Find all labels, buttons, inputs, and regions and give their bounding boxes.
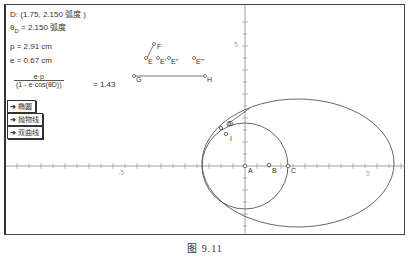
ellipse-button-label: 椭圆: [18, 103, 32, 110]
point-a[interactable]: [243, 164, 247, 168]
label-e2: E": [171, 58, 179, 65]
label-d: D: [228, 120, 233, 127]
label-h: H: [207, 76, 212, 83]
ellipse-curve[interactable]: [202, 99, 394, 227]
label-c: C: [291, 167, 296, 174]
arrow-right-icon: ➔: [10, 103, 16, 110]
label-e3: E'": [196, 58, 205, 65]
parabola-button[interactable]: ➔抛物线: [7, 113, 43, 126]
x-tick-label-pos: 5: [366, 170, 370, 177]
geometry-canvas[interactable]: -5 5 5 A B C D I F E E' E" E'" G H: [0, 0, 410, 257]
measure-e: e = 0.67 cm: [10, 56, 52, 65]
label-e1: E': [160, 58, 166, 65]
measure-p: p = 2.91 cm: [10, 42, 52, 51]
point-f[interactable]: [153, 43, 156, 46]
measure-theta: θD = 2.150 弧度: [10, 21, 66, 34]
x-tick-label-neg: -5: [118, 169, 124, 176]
label-a: A: [248, 167, 253, 174]
figure-caption: 图 9.11: [0, 240, 410, 255]
theta-value: = 2.150 弧度: [19, 23, 66, 32]
parabola-button-label: 抛物线: [18, 116, 39, 123]
label-e: E: [148, 58, 153, 65]
measure-fraction: e·p (1 - e·cos(θD)): [14, 73, 64, 88]
fraction-numerator: e·p: [14, 73, 64, 81]
arrow-right-icon: ➔: [10, 129, 16, 136]
point-i[interactable]: [224, 132, 227, 135]
point-c[interactable]: [286, 164, 290, 168]
fraction-denominator: (1 - e·cos(θD)): [14, 81, 64, 88]
ellipse-button[interactable]: ➔椭圆: [7, 100, 36, 113]
hyperbola-button[interactable]: ➔双曲线: [7, 126, 43, 139]
arrow-right-icon: ➔: [10, 116, 16, 123]
measure-point-d: D: (1.75, 2.150 弧度 ): [10, 8, 86, 19]
hyperbola-button-label: 双曲线: [18, 129, 39, 136]
label-i: I: [230, 135, 232, 142]
point-d-locus[interactable]: [219, 126, 222, 129]
y-tick-label-pos: 5: [234, 41, 238, 48]
label-g: G: [136, 76, 141, 83]
label-f: F: [157, 43, 161, 50]
point-b[interactable]: [267, 163, 271, 167]
label-b: B: [272, 167, 277, 174]
fraction-result: = 1.43: [93, 80, 115, 89]
segment-ef: [147, 44, 154, 58]
